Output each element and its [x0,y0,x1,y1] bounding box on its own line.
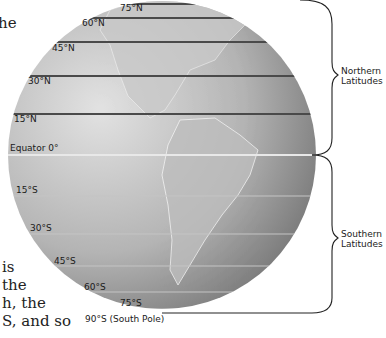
label-75n: 75°N [120,3,143,13]
label-45s: 45°S [54,256,76,266]
label-30s: 30°S [30,223,52,233]
label-30n: 30°N [28,76,51,86]
label-15n: 15°N [14,114,37,124]
label-60s: 60°S [84,282,106,292]
southern-latitudes-label-line2: Latitudes [341,239,383,249]
southern-latitudes-label-line1: Southern [341,229,382,239]
label-south-pole: 90°S (South Pole) [85,314,164,324]
northern-latitudes-label-line1: Northern [341,66,381,76]
label-45n: 45°N [52,43,75,53]
northern-latitudes-label-line2: Latitudes [341,76,383,86]
label-60n: 60°N [82,18,105,28]
label-15s: 15°S [16,185,38,195]
latitude-diagram: 75°N 60°N 45°N 30°N 15°N Equator 0° 15°S… [0,0,386,338]
label-equator: Equator 0° [10,143,58,153]
label-75s: 75°S [120,298,142,308]
